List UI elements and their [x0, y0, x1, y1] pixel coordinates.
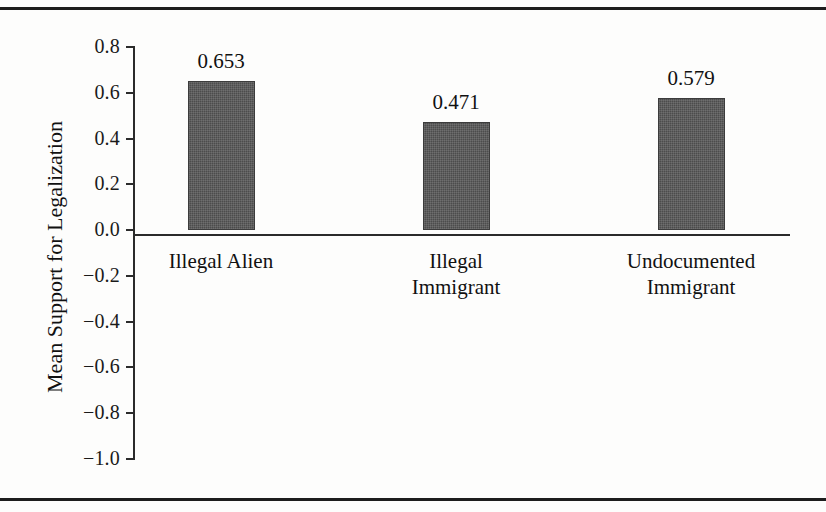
- y-axis-tick: [126, 46, 135, 48]
- x-axis-category-label-line: Illegal Alien: [111, 248, 331, 274]
- y-axis-tick: [126, 183, 135, 185]
- y-axis-tick-label-text: −1.0: [58, 448, 120, 468]
- y-axis-tick-label-text: 0.0: [58, 219, 120, 239]
- bar-value-label: 0.579: [631, 67, 751, 89]
- bar: [423, 122, 490, 230]
- zero-baseline: [133, 234, 790, 236]
- x-axis-category-label-line: Undocumented: [581, 248, 801, 274]
- bar-chart-plot-area: 0.80.60.40.20.0−0.2−0.4−0.6−0.8−1.0 0.65…: [0, 0, 826, 512]
- x-axis-category-label: UndocumentedImmigrant: [581, 248, 801, 300]
- y-axis-tick-label: 0.8: [52, 36, 120, 56]
- x-axis-category-label-line: Illegal: [346, 248, 566, 274]
- y-axis-tick: [126, 366, 135, 368]
- x-axis-category-label: Illegal Alien: [111, 248, 331, 274]
- y-axis-tick-label-text: 0.6: [58, 82, 120, 102]
- bar-value-label: 0.653: [161, 50, 281, 72]
- y-axis-tick: [126, 229, 135, 231]
- y-axis-tick-label: −1.0: [52, 448, 120, 468]
- y-axis-tick-label-text: −0.4: [58, 311, 120, 331]
- bar: [188, 81, 255, 230]
- y-axis-tick: [126, 458, 135, 460]
- y-axis-tick: [126, 412, 135, 414]
- y-axis-title: Mean Support for Legalization: [43, 92, 67, 422]
- bar: [658, 98, 725, 231]
- figure-container: 0.80.60.40.20.0−0.2−0.4−0.6−0.8−1.0 0.65…: [0, 0, 826, 512]
- x-axis-category-label: IllegalImmigrant: [346, 248, 566, 300]
- x-axis-category-label-line: Immigrant: [581, 274, 801, 300]
- x-axis-category-label-line: Immigrant: [346, 274, 566, 300]
- y-axis-tick: [126, 275, 135, 277]
- y-axis-tick-label-text: −0.8: [58, 402, 120, 422]
- y-axis-tick-label-text: 0.8: [58, 36, 120, 56]
- y-axis-tick: [126, 321, 135, 323]
- bar-value-label: 0.471: [396, 91, 516, 113]
- y-axis-tick-label-text: −0.6: [58, 356, 120, 376]
- y-axis-tick: [126, 92, 135, 94]
- y-axis-tick-label-text: 0.4: [58, 128, 120, 148]
- y-axis-tick: [126, 138, 135, 140]
- y-axis-tick-label-text: 0.2: [58, 173, 120, 193]
